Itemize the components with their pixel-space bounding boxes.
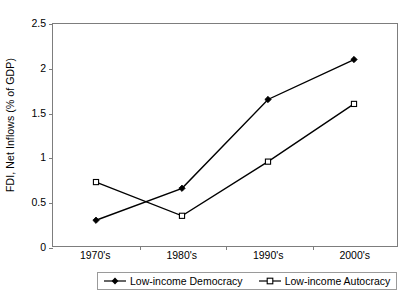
legend-item-label: Low-income Autocracy xyxy=(285,276,391,287)
y-axis-tick-label: 2 xyxy=(14,63,52,74)
y-axis-tick-label: 2.5 xyxy=(14,18,52,29)
legend-marker-filled-diamond-icon xyxy=(104,276,126,286)
y-axis-tick-labels: 00.511.522.5 xyxy=(14,0,52,301)
plot-area xyxy=(52,23,398,247)
y-axis-tick-label: 0.5 xyxy=(14,197,52,208)
legend-item-low-income-autocracy: Low-income Autocracy xyxy=(259,276,391,287)
data-point-marker xyxy=(351,101,356,106)
y-axis-tick-mark xyxy=(49,69,53,70)
data-point-marker xyxy=(265,159,270,164)
x-axis-tick-label: 1970's xyxy=(80,250,111,261)
legend-item-label: Low-income Democracy xyxy=(130,276,243,287)
series-line-2 xyxy=(96,104,354,216)
y-axis-tick-mark xyxy=(49,248,53,249)
x-axis-tick-label: 1990's xyxy=(253,250,284,261)
data-point-marker xyxy=(93,179,98,184)
legend-marker-open-square-icon xyxy=(259,276,281,286)
y-axis-tick-mark xyxy=(49,203,53,204)
chart-legend: Low-income Democracy Low-income Autocrac… xyxy=(97,272,397,290)
x-axis-tick-labels: 1970's1980's1990's2000's xyxy=(52,250,398,266)
x-axis-tick-label: 1980's xyxy=(166,250,197,261)
y-axis-tick-label: 0 xyxy=(14,242,52,253)
series-line-1 xyxy=(96,60,354,221)
x-axis-tick-label: 2000's xyxy=(339,250,370,261)
data-point-marker xyxy=(179,213,184,218)
y-axis-tick-label: 1 xyxy=(14,152,52,163)
y-axis-tick-mark xyxy=(49,24,53,25)
y-axis-tick-mark xyxy=(49,114,53,115)
data-point-marker xyxy=(351,56,357,62)
plot-series-svg xyxy=(53,24,397,246)
y-axis-tick-mark xyxy=(49,158,53,159)
y-axis-tick-label: 1.5 xyxy=(14,107,52,118)
data-point-marker xyxy=(93,217,99,223)
fdi-line-chart: FDI, Net Inflows (% of GDP) 00.511.522.5… xyxy=(0,0,410,301)
legend-item-low-income-democracy: Low-income Democracy xyxy=(104,276,243,287)
